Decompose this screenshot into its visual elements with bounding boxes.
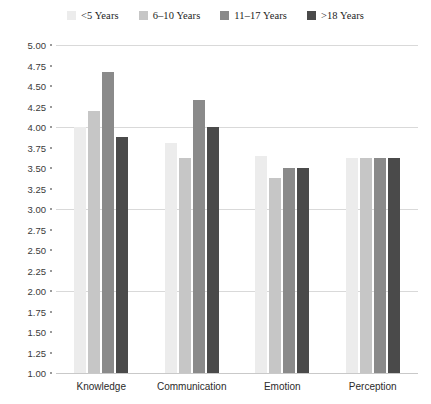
plot-area (56, 45, 418, 373)
bar-group-perception (328, 45, 419, 373)
x-axis-label-communication: Communication (157, 381, 226, 392)
y-axis-tick-label: 2.00 (28, 286, 47, 297)
y-axis-tick-label: 2.25 (28, 265, 47, 276)
bar (269, 178, 281, 373)
y-axis-tick-mark (50, 147, 52, 149)
y-axis-tick-mark (50, 65, 52, 67)
y-axis-tick-mark (50, 372, 52, 374)
legend-swatch-icon-3 (307, 11, 316, 20)
x-axis-label-knowledge: Knowledge (77, 381, 126, 392)
legend-label-3: >18 Years (321, 10, 364, 21)
chart-legend: <5 Years 6–10 Years 11–17 Years >18 Year… (0, 0, 431, 30)
bar (374, 158, 386, 373)
legend-item-1: 6–10 Years (139, 10, 201, 21)
y-axis-tick-label: 1.50 (28, 327, 47, 338)
bar-group-knowledge (56, 45, 147, 373)
bar (283, 168, 295, 373)
legend-item-0: <5 Years (67, 10, 119, 21)
legend-swatch-icon-1 (139, 11, 148, 20)
bar (297, 168, 309, 373)
y-axis-tick-label: 3.50 (28, 163, 47, 174)
legend-item-3: >18 Years (307, 10, 364, 21)
y-axis-tick-mark (50, 311, 52, 313)
y-axis-tick-mark (50, 208, 52, 210)
bar (346, 158, 358, 373)
bar (116, 137, 128, 373)
x-axis-label-emotion: Emotion (264, 381, 301, 392)
legend-item-2: 11–17 Years (220, 10, 287, 21)
y-axis-tick-label: 1.75 (28, 306, 47, 317)
y-axis-tick-mark (50, 188, 52, 190)
y-axis-tick-label: 2.75 (28, 224, 47, 235)
bar (102, 72, 114, 373)
bar-chart: <5 Years 6–10 Years 11–17 Years >18 Year… (0, 0, 431, 404)
y-axis-tick-label: 2.50 (28, 245, 47, 256)
y-axis-tick-label: 1.00 (28, 368, 47, 379)
y-axis-tick-label: 4.75 (28, 60, 47, 71)
legend-label-1: 6–10 Years (153, 10, 201, 21)
y-axis-tick-label: 3.75 (28, 142, 47, 153)
y-axis-tick-label: 3.25 (28, 183, 47, 194)
y-axis-tick-mark (50, 270, 52, 272)
bar (74, 127, 86, 373)
bar (207, 127, 219, 373)
bar (255, 156, 267, 373)
bar-group-communication (147, 45, 238, 373)
x-axis-line (56, 373, 418, 374)
bar (165, 143, 177, 373)
y-axis-tick-mark (50, 126, 52, 128)
bar (88, 111, 100, 373)
x-axis-label-perception: Perception (349, 381, 397, 392)
bar (388, 158, 400, 373)
legend-swatch-icon-2 (220, 11, 229, 20)
y-axis-tick-mark (50, 290, 52, 292)
bar (193, 100, 205, 373)
legend-label-0: <5 Years (81, 10, 119, 21)
y-axis-tick-mark (50, 331, 52, 333)
y-axis-tick-label: 1.25 (28, 347, 47, 358)
y-axis-tick-mark (50, 249, 52, 251)
y-axis-tick-label: 3.00 (28, 204, 47, 215)
legend-label-2: 11–17 Years (234, 10, 287, 21)
y-axis-tick-label: 4.25 (28, 101, 47, 112)
legend-swatch-icon-0 (67, 11, 76, 20)
bar (360, 158, 372, 373)
y-axis-tick-mark (50, 229, 52, 231)
bar (179, 158, 191, 373)
y-axis-tick-mark (50, 44, 52, 46)
y-axis-tick-label: 4.00 (28, 122, 47, 133)
bar-group-emotion (237, 45, 328, 373)
y-axis: 5.004.754.504.254.003.753.503.253.002.75… (0, 0, 46, 404)
y-axis-tick-mark (50, 106, 52, 108)
y-axis-tick-mark (50, 85, 52, 87)
y-axis-tick-mark (50, 352, 52, 354)
y-axis-tick-label: 4.50 (28, 81, 47, 92)
y-axis-tick-label: 5.00 (28, 40, 47, 51)
y-axis-tick-mark (50, 167, 52, 169)
